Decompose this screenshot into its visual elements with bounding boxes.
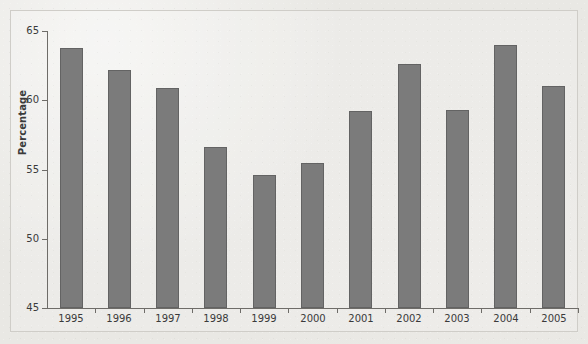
y-tick-55: 55 [0,170,47,171]
axes: 4550556065 19951996199719981999200020012… [0,0,588,344]
y-tick-label: 60 [5,95,39,105]
x-tick-label-2001: 2001 [338,314,384,324]
x-tick-mark [578,308,579,313]
y-tick-mark [42,239,47,240]
y-tick-label: 55 [5,165,39,175]
x-tick-mark [144,308,145,313]
bar-2003 [446,110,469,308]
x-tick-label-1997: 1997 [145,314,191,324]
y-tick-label: 45 [5,303,39,313]
x-tick-label-2002: 2002 [386,314,432,324]
bar-2004 [494,45,517,308]
x-tick-mark [192,308,193,313]
figure: Percentage 4550556065 199519961997199819… [0,0,588,344]
y-tick-label: 50 [5,234,39,244]
y-tick-50: 50 [0,239,47,240]
x-tick-label-2000: 2000 [290,314,336,324]
bar-2002 [398,64,421,308]
x-tick-mark [530,308,531,313]
x-tick-label-2003: 2003 [434,314,480,324]
y-tick-mark [42,170,47,171]
x-tick-label-1999: 1999 [241,314,287,324]
bar-1999 [253,175,276,308]
y-tick-45: 45 [0,308,47,309]
x-tick-label-2004: 2004 [483,314,529,324]
bar-1998 [204,147,227,308]
x-tick-mark [481,308,482,313]
x-axis-line [47,308,578,309]
bar-1997 [156,88,179,308]
bar-2001 [349,111,372,308]
y-tick-60: 60 [0,100,47,101]
x-tick-mark [288,308,289,313]
x-tick-label-1996: 1996 [96,314,142,324]
bar-1996 [108,70,131,308]
x-tick-mark [95,308,96,313]
y-tick-65: 65 [0,31,47,32]
y-axis-line [47,31,48,309]
x-tick-label-1998: 1998 [193,314,239,324]
x-tick-mark [385,308,386,313]
bar-1995 [60,48,83,308]
y-tick-mark [42,31,47,32]
x-tick-mark [337,308,338,313]
y-tick-mark [42,308,47,309]
x-tick-label-2005: 2005 [531,314,577,324]
y-tick-label: 65 [5,26,39,36]
bar-2005 [542,86,565,308]
x-tick-mark [240,308,241,313]
x-tick-label-1995: 1995 [48,314,94,324]
bar-2000 [301,163,324,308]
x-tick-mark [433,308,434,313]
y-tick-mark [42,100,47,101]
